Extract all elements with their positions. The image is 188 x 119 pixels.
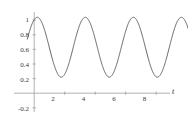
y-tick-label-0.4: 0.4 xyxy=(4,62,29,69)
x-tick-label-2: 2 xyxy=(45,96,61,103)
y-tick-label-0.8: 0.8 xyxy=(4,32,29,39)
x-tick-label-8: 8 xyxy=(137,96,153,103)
y-tick-label-0.2: 0.2 xyxy=(4,77,29,84)
chart-figure: 1 0.8 0.6 0.4 0.2 -0.2 2 4 6 8 t xyxy=(0,0,188,119)
x-tick-label-4: 4 xyxy=(76,96,92,103)
y-tick-label-negative-0.2: -0.2 xyxy=(1,106,29,113)
x-axis-label: t xyxy=(172,88,174,96)
data-curve xyxy=(27,17,188,77)
y-tick-label-0.6: 0.6 xyxy=(4,47,29,54)
y-tick-label-1: 1 xyxy=(4,17,29,24)
x-tick-label-6: 6 xyxy=(106,96,122,103)
